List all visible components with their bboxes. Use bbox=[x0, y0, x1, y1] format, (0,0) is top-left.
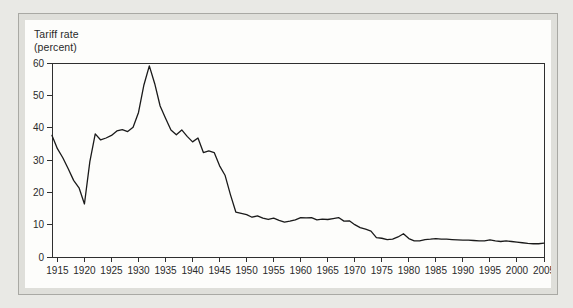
y-axis-title-line2: (percent) bbox=[34, 41, 79, 54]
x-tick-label: 1950 bbox=[236, 265, 259, 276]
tariff-rate-series-line bbox=[52, 66, 544, 244]
x-tick-label: 1945 bbox=[208, 265, 231, 276]
y-axis-title-line1: Tariff rate bbox=[34, 28, 79, 41]
x-tick-label: 1920 bbox=[73, 265, 96, 276]
y-tick-label: 40 bbox=[33, 122, 45, 133]
y-tick-label: 30 bbox=[33, 155, 45, 166]
x-tick-label: 1930 bbox=[127, 265, 150, 276]
plot-frame bbox=[52, 63, 544, 257]
y-axis-title: Tariff rate (percent) bbox=[34, 28, 79, 54]
figure-frame: 0102030405060191519201925193019351940194… bbox=[18, 13, 558, 295]
chart-panel: 0102030405060191519201925193019351940194… bbox=[25, 20, 551, 288]
x-tick-label: 1935 bbox=[154, 265, 177, 276]
x-tick-label: 1915 bbox=[46, 265, 69, 276]
x-tick-label: 2005 bbox=[533, 265, 551, 276]
x-tick-label: 1995 bbox=[479, 265, 502, 276]
x-tick-label: 2000 bbox=[506, 265, 529, 276]
y-tick-label: 20 bbox=[33, 187, 45, 198]
y-tick-label: 0 bbox=[38, 252, 44, 263]
x-tick-label: 1955 bbox=[263, 265, 286, 276]
x-tick-label: 1960 bbox=[290, 265, 313, 276]
x-tick-label: 1925 bbox=[100, 265, 123, 276]
x-tick-label: 1940 bbox=[181, 265, 204, 276]
x-tick-label: 1980 bbox=[398, 265, 421, 276]
y-tick-label: 60 bbox=[33, 58, 45, 69]
x-tick-label: 1970 bbox=[344, 265, 367, 276]
y-tick-label: 10 bbox=[33, 219, 45, 230]
page-background: 0102030405060191519201925193019351940194… bbox=[0, 0, 573, 308]
x-tick-label: 1985 bbox=[425, 265, 448, 276]
x-tick-label: 1990 bbox=[452, 265, 475, 276]
tariff-rate-line-chart: 0102030405060191519201925193019351940194… bbox=[25, 20, 551, 288]
x-tick-label: 1965 bbox=[317, 265, 340, 276]
x-tick-label: 1975 bbox=[371, 265, 394, 276]
y-tick-label: 50 bbox=[33, 90, 45, 101]
